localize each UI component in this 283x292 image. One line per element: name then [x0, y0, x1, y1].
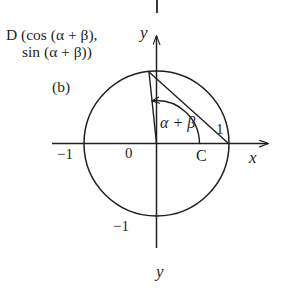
y-axis-label: y — [140, 24, 148, 42]
angle-label: α + β — [160, 115, 195, 132]
x-tick-negative-one: −1 — [57, 147, 73, 163]
next-figure-y-axis-label: y — [156, 263, 164, 281]
point-d-label-line2: sin (α + β)) — [6, 44, 97, 60]
origin-label: 0 — [125, 146, 133, 162]
y-tick-negative-one: −1 — [113, 219, 129, 235]
point-c-label: C — [196, 148, 207, 165]
unit-circle-figure: D (cos (α + β), sin (α + β)) (b) y x −1 … — [0, 0, 283, 292]
point-d-label: D (cos (α + β), sin (α + β)) — [6, 27, 97, 61]
x-tick-one: 1 — [216, 122, 224, 138]
point-d-label-line1: D (cos (α + β), — [6, 26, 97, 43]
x-axis-label: x — [249, 149, 257, 167]
top-edge-tick-artifact — [156, 0, 158, 13]
segment-od — [149, 72, 157, 144]
subfigure-label: (b) — [52, 79, 70, 95]
